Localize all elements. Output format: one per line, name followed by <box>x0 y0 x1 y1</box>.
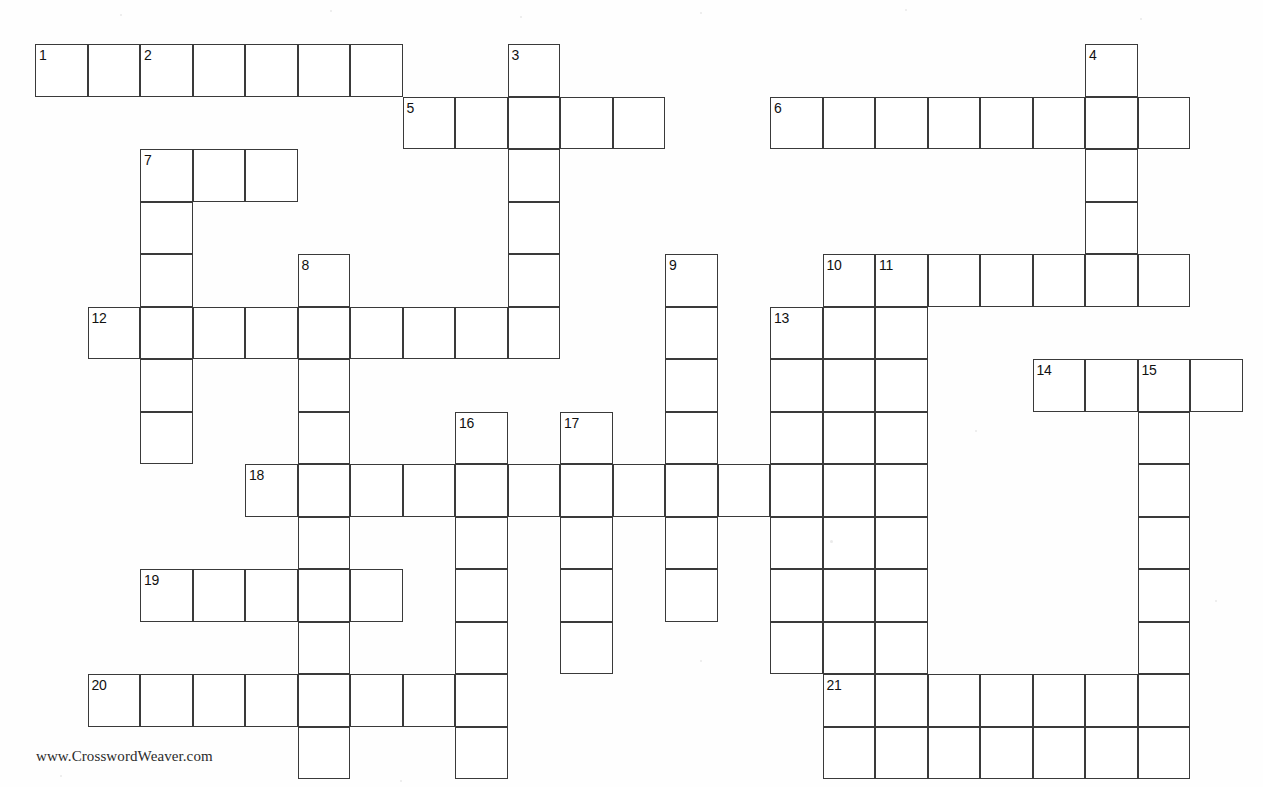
crossword-cell[interactable] <box>508 464 561 517</box>
crossword-cell[interactable] <box>1085 97 1138 150</box>
crossword-cell[interactable] <box>140 254 193 307</box>
crossword-grid[interactable]: 123456789101112131415161718192021 <box>0 0 1263 787</box>
crossword-cell[interactable] <box>298 464 351 517</box>
crossword-cell[interactable] <box>875 97 928 150</box>
crossword-cell[interactable] <box>875 359 928 412</box>
crossword-cell-7[interactable] <box>140 149 193 202</box>
crossword-cell-4[interactable] <box>1085 44 1138 97</box>
crossword-cell[interactable] <box>1138 412 1191 465</box>
crossword-cell[interactable] <box>508 202 561 255</box>
crossword-cell[interactable] <box>350 307 403 360</box>
crossword-cell-2[interactable] <box>140 44 193 97</box>
crossword-cell[interactable] <box>193 44 246 97</box>
crossword-cell[interactable] <box>1138 97 1191 150</box>
crossword-cell[interactable] <box>980 727 1033 780</box>
crossword-cell[interactable] <box>455 464 508 517</box>
crossword-cell[interactable] <box>823 569 876 622</box>
crossword-cell[interactable] <box>508 97 561 150</box>
crossword-cell[interactable] <box>1085 727 1138 780</box>
crossword-cell[interactable] <box>875 464 928 517</box>
crossword-cell[interactable] <box>1085 202 1138 255</box>
crossword-cell[interactable] <box>770 517 823 570</box>
crossword-cell[interactable] <box>1138 569 1191 622</box>
crossword-cell[interactable] <box>455 97 508 150</box>
crossword-cell[interactable] <box>1033 97 1086 150</box>
crossword-cell[interactable] <box>193 307 246 360</box>
crossword-cell-18[interactable] <box>245 464 298 517</box>
crossword-cell[interactable] <box>1138 727 1191 780</box>
crossword-cell[interactable] <box>455 727 508 780</box>
crossword-cell[interactable] <box>823 97 876 150</box>
crossword-cell-20[interactable] <box>88 674 141 727</box>
crossword-cell[interactable] <box>350 569 403 622</box>
crossword-cell[interactable] <box>1033 254 1086 307</box>
crossword-cell[interactable] <box>298 569 351 622</box>
crossword-cell-3[interactable] <box>508 44 561 97</box>
crossword-cell[interactable] <box>823 727 876 780</box>
crossword-cell[interactable] <box>298 359 351 412</box>
crossword-cell[interactable] <box>245 569 298 622</box>
crossword-cell[interactable] <box>560 464 613 517</box>
crossword-cell[interactable] <box>455 307 508 360</box>
crossword-cell[interactable] <box>560 517 613 570</box>
crossword-cell[interactable] <box>245 149 298 202</box>
crossword-cell[interactable] <box>665 307 718 360</box>
crossword-cell-10[interactable] <box>823 254 876 307</box>
crossword-cell[interactable] <box>193 569 246 622</box>
crossword-cell[interactable] <box>298 517 351 570</box>
crossword-cell[interactable] <box>245 44 298 97</box>
crossword-cell[interactable] <box>823 359 876 412</box>
crossword-cell[interactable] <box>193 149 246 202</box>
crossword-cell-21[interactable] <box>823 674 876 727</box>
crossword-cell[interactable] <box>1085 254 1138 307</box>
crossword-cell[interactable] <box>1138 254 1191 307</box>
crossword-cell[interactable] <box>613 97 666 150</box>
crossword-cell[interactable] <box>560 569 613 622</box>
crossword-cell[interactable] <box>770 359 823 412</box>
crossword-cell-11[interactable] <box>875 254 928 307</box>
crossword-cell[interactable] <box>613 464 666 517</box>
crossword-cell[interactable] <box>298 44 351 97</box>
crossword-cell[interactable] <box>665 464 718 517</box>
crossword-cell[interactable] <box>823 412 876 465</box>
crossword-cell[interactable] <box>298 412 351 465</box>
crossword-cell[interactable] <box>1138 517 1191 570</box>
crossword-cell[interactable] <box>508 149 561 202</box>
crossword-cell[interactable] <box>455 517 508 570</box>
crossword-cell[interactable] <box>1138 674 1191 727</box>
crossword-cell[interactable] <box>1085 674 1138 727</box>
crossword-cell[interactable] <box>560 97 613 150</box>
crossword-cell[interactable] <box>665 359 718 412</box>
crossword-cell[interactable] <box>770 412 823 465</box>
crossword-cell[interactable] <box>875 569 928 622</box>
crossword-cell[interactable] <box>980 674 1033 727</box>
crossword-cell-16[interactable] <box>455 412 508 465</box>
crossword-cell[interactable] <box>298 674 351 727</box>
crossword-cell[interactable] <box>1138 464 1191 517</box>
crossword-cell[interactable] <box>823 622 876 675</box>
crossword-cell[interactable] <box>718 464 771 517</box>
crossword-cell[interactable] <box>1138 622 1191 675</box>
crossword-cell-14[interactable] <box>1033 359 1086 412</box>
crossword-cell[interactable] <box>560 622 613 675</box>
crossword-cell-12[interactable] <box>88 307 141 360</box>
crossword-cell[interactable] <box>665 412 718 465</box>
crossword-cell[interactable] <box>770 622 823 675</box>
crossword-cell-5[interactable] <box>403 97 456 150</box>
crossword-cell-6[interactable] <box>770 97 823 150</box>
crossword-cell[interactable] <box>665 517 718 570</box>
crossword-cell[interactable] <box>455 622 508 675</box>
crossword-cell[interactable] <box>928 97 981 150</box>
crossword-cell[interactable] <box>455 569 508 622</box>
crossword-cell[interactable] <box>350 464 403 517</box>
crossword-cell[interactable] <box>875 674 928 727</box>
crossword-cell-8[interactable] <box>298 254 351 307</box>
crossword-cell-15[interactable] <box>1138 359 1191 412</box>
crossword-cell[interactable] <box>1085 149 1138 202</box>
crossword-cell[interactable] <box>403 464 456 517</box>
crossword-cell[interactable] <box>665 569 718 622</box>
crossword-cell[interactable] <box>245 307 298 360</box>
crossword-cell[interactable] <box>928 674 981 727</box>
crossword-cell[interactable] <box>140 412 193 465</box>
crossword-cell[interactable] <box>298 727 351 780</box>
